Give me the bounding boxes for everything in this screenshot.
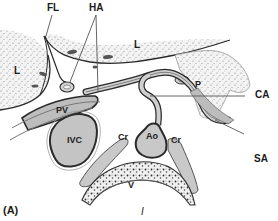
label-fl: FL (47, 3, 59, 13)
label-ivc: IVC (67, 136, 82, 145)
label-v: V (128, 181, 134, 190)
label-pv: PV (56, 106, 68, 115)
bottom-label: I (141, 207, 144, 217)
panel-label: (A) (3, 205, 18, 216)
label-ha: HA (89, 3, 103, 13)
label-cr-left: Cr (118, 133, 128, 142)
label-cr-right: Cr (171, 136, 181, 145)
liver-left-region (0, 30, 50, 110)
label-ca: CA (255, 90, 269, 100)
label-l-top: L (134, 40, 140, 50)
diagram-drawing (0, 0, 278, 221)
label-ao: Ao (146, 132, 158, 141)
label-l-left: L (14, 66, 20, 76)
anatomical-diagram: FL HA L L P CA PV IVC Cr Ao Cr SA V (A) … (0, 0, 278, 221)
label-p: P (195, 80, 201, 89)
label-sa: SA (254, 154, 268, 164)
